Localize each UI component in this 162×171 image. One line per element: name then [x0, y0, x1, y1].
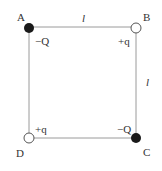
charge-c-dot	[131, 133, 141, 143]
vertex-d-label: D	[16, 147, 24, 159]
charge-c-label: −Q	[117, 123, 131, 135]
vertex-c-label: C	[143, 146, 150, 158]
charge-d-circle	[24, 133, 34, 143]
charge-a-dot	[24, 23, 34, 33]
vertex-b-label: B	[143, 11, 150, 23]
charge-square-diagram: l l A −Q B +q C −Q D +q	[0, 0, 162, 171]
charge-a-label: −Q	[35, 35, 49, 47]
vertex-a-label: A	[17, 11, 25, 23]
side-right-label: l	[146, 76, 149, 88]
side-top-label: l	[82, 12, 85, 24]
charge-b-label: +q	[118, 35, 130, 47]
charge-b-circle	[131, 23, 141, 33]
charge-d-label: +q	[35, 123, 47, 135]
